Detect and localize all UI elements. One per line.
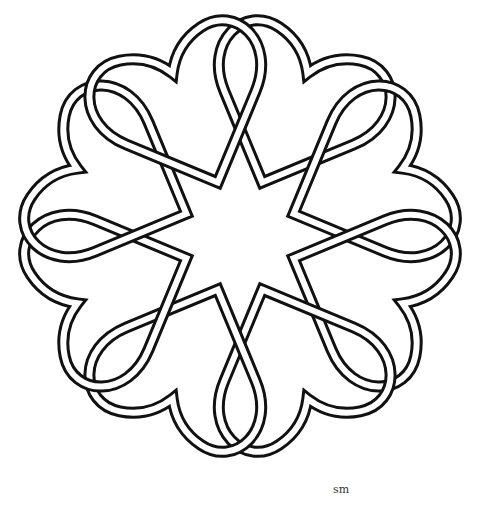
artist-signature: sm (333, 483, 349, 496)
interlaced-hearts-artwork (0, 0, 481, 517)
